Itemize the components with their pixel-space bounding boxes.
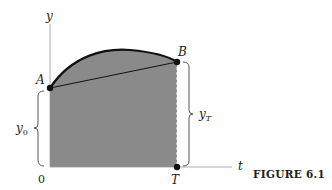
figure-caption: FIGURE 6.1: [253, 168, 325, 180]
label-yT: yT: [198, 107, 212, 123]
figure-6-1: y t 0 A B T y0 yT FIGURE 6.1: [0, 0, 332, 190]
point-T: [174, 164, 180, 170]
brace-y0: [34, 91, 44, 166]
y-axis-label: y: [45, 9, 53, 23]
label-y0: y0: [15, 121, 28, 137]
t-axis-label: t: [238, 159, 243, 173]
point-B: [174, 59, 180, 65]
point-A: [47, 85, 53, 91]
label-T: T: [171, 173, 180, 187]
origin-label: 0: [38, 173, 45, 186]
label-A: A: [35, 73, 45, 87]
label-B: B: [177, 45, 187, 59]
brace-yT: [183, 62, 193, 166]
